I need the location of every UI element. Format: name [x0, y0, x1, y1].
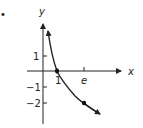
graph: • x y 1 e 1 −1 −2	[0, 0, 143, 128]
point-e-neg2	[82, 101, 86, 105]
x-tick-label-e: e	[81, 75, 87, 86]
y-axis-label: y	[38, 6, 46, 17]
curve-end-arrow	[84, 103, 100, 114]
x-axis-label: x	[127, 66, 134, 77]
y-tick-label-neg1: −1	[26, 82, 41, 93]
point-1-0	[55, 69, 59, 73]
figure-marker: •	[0, 9, 6, 20]
y-tick-label-1: 1	[33, 51, 39, 62]
y-tick-label-neg2: −2	[26, 98, 41, 109]
